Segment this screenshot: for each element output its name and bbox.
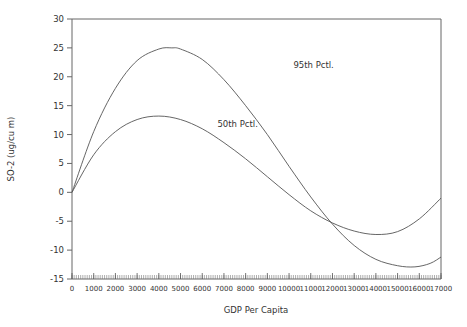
x-axis-title: GDP Per Capita — [224, 305, 289, 315]
x-tick-label: 2000 — [106, 285, 124, 293]
y-tick-label: -10 — [50, 245, 64, 255]
chart: -15-10-5051015202530 0100020003000400050… — [0, 0, 467, 327]
x-tick-label: 16000 — [408, 285, 430, 293]
y-axis-title: SO-2 (ug/cu m) — [6, 117, 16, 182]
x-tick-label: 7000 — [215, 285, 233, 293]
y-tick-label: -5 — [56, 216, 64, 226]
y-tick-label: 30 — [53, 14, 64, 24]
y-tick-label: 25 — [53, 43, 64, 53]
x-tick-label: 14000 — [365, 285, 387, 293]
x-tick-label: 8000 — [237, 285, 255, 293]
x-tick-label: 0 — [70, 285, 74, 293]
x-tick-label: 17000 — [430, 285, 452, 293]
x-tick-label: 12000 — [321, 285, 343, 293]
y-tick-label: -15 — [50, 274, 64, 284]
series-50th-pctl-line — [72, 116, 441, 234]
y-tick-label: 20 — [53, 72, 64, 82]
y-tick-label: 15 — [53, 101, 64, 111]
x-tick-label: 4000 — [150, 285, 168, 293]
x-tick-label: 15000 — [386, 285, 408, 293]
x-tick-label: 3000 — [128, 285, 146, 293]
x-tick-label: 6000 — [193, 285, 211, 293]
x-tick-label: 9000 — [258, 285, 276, 293]
x-tick-label: 10000 — [278, 285, 300, 293]
x-tick-label: 11000 — [300, 285, 322, 293]
annotation-50th-pctl: 50th Pctl. — [217, 119, 257, 129]
y-tick-label: 0 — [59, 187, 64, 197]
y-tick-label: 10 — [53, 130, 64, 140]
y-tick-label: 5 — [59, 158, 64, 168]
annotation-95th-pctl: 95th Pctl. — [293, 60, 333, 70]
x-tick-label: 1000 — [85, 285, 103, 293]
x-tick-label: 13000 — [343, 285, 365, 293]
x-tick-label: 5000 — [172, 285, 190, 293]
